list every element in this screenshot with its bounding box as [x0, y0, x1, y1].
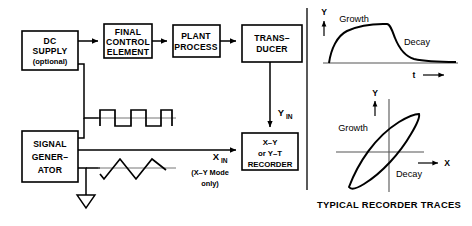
block-plant-process-line1: PLANT [181, 31, 211, 41]
traces-caption: TYPICAL RECORDER TRACES [317, 199, 461, 210]
signal-label-y-in-base: Y [278, 107, 285, 118]
block-transducer-line2: DUCER [256, 44, 288, 54]
triangle-wave-icon [98, 159, 176, 179]
block-signal-generator-line2: GENER– [32, 152, 69, 162]
chart-hysteresis-loop: Y Growth Decay X [336, 88, 450, 192]
block-final-control-element-line1: FINAL [115, 27, 141, 37]
block-final-control-element[interactable]: FINAL CONTROL ELEMENT [104, 24, 152, 58]
mode-note-line2: only) [201, 179, 219, 188]
signal-label-x-in: X IN [213, 151, 228, 164]
signal-label-y-in-sub: IN [286, 113, 293, 120]
block-signal-generator-line3: ATOR [38, 165, 63, 175]
wire-dc-supply-tap [78, 64, 100, 118]
chart-growth-decay-vs-time: Y Growth Decay t [321, 7, 458, 80]
mode-note: (X–Y Mode only) [191, 168, 229, 188]
diagram-root: DC SUPPLY (optional) FINAL CONTROL ELEME… [0, 0, 472, 226]
bottom-chart-decay-label: Decay [396, 169, 422, 179]
block-plant-process[interactable]: PLANT PROCESS [173, 25, 220, 57]
wire-siggen-square-out [78, 118, 84, 138]
block-recorder-line3: RECORDER [248, 160, 293, 169]
top-chart-x-axis-label: t [413, 70, 416, 80]
bottom-chart-x-axis-label: X [444, 158, 450, 168]
diagram-canvas: DC SUPPLY (optional) FINAL CONTROL ELEME… [0, 0, 472, 226]
block-dc-supply[interactable]: DC SUPPLY (optional) [22, 31, 78, 70]
block-final-control-element-line2: CONTROL [106, 37, 150, 47]
block-transducer-line1: TRANS– [254, 33, 290, 43]
block-dc-supply-line2: SUPPLY [33, 46, 68, 56]
block-recorder-line1: X–Y [263, 138, 279, 147]
block-dc-supply-line1: DC [44, 36, 57, 46]
ground-symbol [77, 195, 95, 208]
top-chart-growth-label: Growth [339, 14, 369, 24]
block-plant-process-line2: PROCESS [174, 42, 217, 52]
mode-note-line1: (X–Y Mode [191, 168, 229, 177]
signal-label-y-in: Y IN [278, 107, 293, 120]
block-signal-generator[interactable]: SIGNAL GENER– ATOR [22, 131, 78, 182]
block-signal-generator-line1: SIGNAL [33, 139, 67, 149]
block-dc-supply-line3: (optional) [33, 57, 68, 66]
bottom-chart-y-axis-label: Y [372, 88, 378, 98]
block-recorder[interactable]: X–Y or Y–T RECORDER [242, 133, 298, 170]
top-chart-trace [329, 24, 456, 63]
square-wave-icon [98, 110, 176, 126]
top-chart-y-axis-label: Y [321, 7, 327, 17]
block-plant-process-rect [173, 25, 220, 57]
block-recorder-line2: or Y–T [258, 149, 282, 158]
top-chart-decay-label: Decay [404, 37, 430, 47]
block-final-control-element-line3: ELEMENT [107, 47, 150, 57]
wire-siggen-triangle-out [78, 168, 100, 195]
bottom-chart-growth-label: Growth [338, 123, 368, 133]
signal-label-x-in-sub: IN [221, 157, 228, 164]
block-transducer[interactable]: TRANS– DUCER [242, 25, 302, 62]
signal-label-x-in-base: X [213, 151, 220, 162]
